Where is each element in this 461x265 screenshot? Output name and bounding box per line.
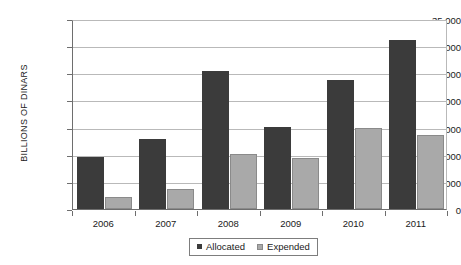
plot-area [72,20,447,210]
bar-allocated-2008 [202,71,229,209]
x-axis-tick-mark [385,211,386,216]
x-axis-tick-label-2010: 2010 [343,218,364,229]
bar-chart: BILLIONS OF DINARS 05,00010,00015,00020,… [0,0,461,265]
legend-label-allocated: Allocated [206,241,245,252]
bar-allocated-2009 [264,127,291,209]
y-axis-title: BILLIONS OF DINARS [19,33,29,193]
bar-group [136,21,199,209]
bar-group [323,21,386,209]
x-axis-tick-mark [447,211,448,216]
bar-group [386,21,449,209]
x-axis-tick-label-2011: 2011 [406,218,426,229]
legend-entry-allocated: Allocated [197,241,245,252]
x-axis-tick-mark [197,211,198,216]
bar-allocated-2010 [327,80,354,209]
bar-expended-2011 [417,135,444,209]
legend-swatch-allocated-icon [197,244,202,249]
bar-expended-2008 [230,154,257,209]
bar-expended-2010 [355,128,382,209]
bar-group [73,21,136,209]
bar-group [198,21,261,209]
bar-expended-2006 [105,197,132,209]
x-axis-tick-mark [260,211,261,216]
legend-swatch-expended-icon [257,244,263,250]
bar-allocated-2007 [139,139,166,209]
x-axis-tick-label-2006: 2006 [93,218,114,229]
bar-group [261,21,324,209]
bar-expended-2009 [292,158,319,209]
x-axis-tick-mark [135,211,136,216]
bar-allocated-2006 [77,157,104,209]
x-axis-tick-label-2007: 2007 [155,218,176,229]
legend-label-expended: Expended [267,241,310,252]
bar-expended-2007 [167,189,194,209]
bar-allocated-2011 [389,40,416,209]
x-axis-tick-label-2008: 2008 [218,218,239,229]
chart-legend: Allocated Expended [189,238,318,256]
x-axis-tick-label-2009: 2009 [280,218,301,229]
x-axis-tick-mark [322,211,323,216]
x-axis-tick-mark [72,211,73,216]
legend-entry-expended: Expended [257,241,310,252]
